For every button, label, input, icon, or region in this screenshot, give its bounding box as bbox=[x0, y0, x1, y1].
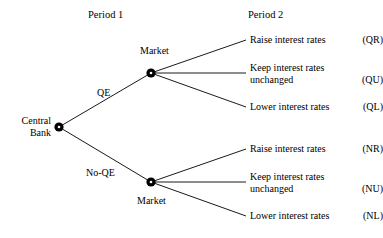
outcome-no-qe-lower-code: (NL) bbox=[363, 210, 383, 222]
outcome-qe-raise-text: Raise interest rates bbox=[250, 34, 326, 45]
edge-no-qe-raise bbox=[151, 149, 246, 182]
outcome-qe-lower-code: (QL) bbox=[363, 101, 383, 113]
outcome-no-qe-raise-text: Raise interest rates bbox=[250, 143, 326, 154]
outcome-qe-keep: Keep interest rates unchanged (QU) bbox=[250, 62, 383, 85]
outcome-no-qe-keep: Keep interest rates unchanged (NU) bbox=[250, 171, 383, 194]
central-bank-label-line1: Central bbox=[0, 115, 51, 127]
outcome-no-qe-lower-text: Lower interest rates bbox=[250, 210, 329, 221]
decision-tree-figure: Period 1 Period 2 Central Bank Market Ma… bbox=[0, 0, 383, 238]
node-central-bank-center bbox=[58, 126, 61, 129]
edge-qe-lower bbox=[151, 73, 246, 107]
outcome-no-qe-lower: Lower interest rates (NL) bbox=[250, 210, 383, 222]
outcome-qe-lower: Lower interest rates (QL) bbox=[250, 101, 383, 113]
node-market-qe-center bbox=[150, 72, 153, 75]
market-no-qe-label: Market bbox=[137, 195, 166, 207]
outcome-qe-lower-text: Lower interest rates bbox=[250, 101, 329, 112]
outcome-qe-keep-text-line1: Keep interest rates bbox=[250, 62, 324, 73]
market-qe-label: Market bbox=[140, 45, 169, 57]
outcome-no-qe-raise-code: (NR) bbox=[362, 143, 383, 155]
outcome-no-qe-keep-text-line1: Keep interest rates bbox=[250, 171, 324, 182]
central-bank-label-line2: Bank bbox=[0, 127, 51, 139]
edge-label-qe: QE bbox=[97, 87, 110, 99]
outcome-qe-raise-code: (QR) bbox=[362, 34, 383, 46]
outcome-no-qe-keep-code: (NU) bbox=[362, 183, 383, 195]
edge-qe bbox=[59, 73, 151, 127]
outcome-qe-keep-text-line2: unchanged bbox=[250, 74, 293, 85]
period-1-header: Period 1 bbox=[88, 9, 123, 21]
node-market-no-qe-center bbox=[150, 181, 153, 184]
outcome-qe-keep-code: (QU) bbox=[362, 74, 383, 86]
period-2-header: Period 2 bbox=[248, 9, 283, 21]
outcome-no-qe-keep-text-line2: unchanged bbox=[250, 183, 293, 194]
edge-label-no-qe: No-QE bbox=[86, 167, 115, 179]
outcome-no-qe-raise: Raise interest rates (NR) bbox=[250, 143, 383, 155]
outcome-qe-raise: Raise interest rates (QR) bbox=[250, 34, 383, 46]
